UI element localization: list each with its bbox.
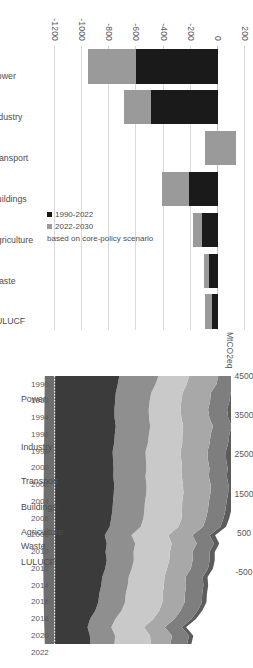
bar-segment-projection	[162, 172, 190, 206]
legend-item-historical: 1990-2022	[47, 210, 93, 219]
area-y-tick-label: -500	[235, 567, 252, 577]
bar-y-tick-label: -400	[159, 23, 169, 46]
bar-y-tick-label: 200	[240, 26, 250, 46]
area-x-tick-label: 2006	[31, 514, 49, 523]
bar-segment-projection	[205, 131, 236, 165]
bar-column[interactable]	[55, 87, 245, 128]
bar-column[interactable]	[55, 46, 245, 87]
bar-column[interactable]	[55, 250, 245, 291]
bar-category-label: Industry	[0, 112, 22, 122]
legend-label-projection: 2022-2030	[55, 222, 93, 231]
area-x-tick-label: 2014	[31, 581, 49, 590]
bar-figure-canvas: 2000-200-400-600-800-1000-1200 PowerIndu…	[0, 0, 253, 340]
bar-y-tick-label: -200	[186, 23, 196, 46]
area-series-label: Waste	[21, 541, 46, 551]
area-series-label: Buildings	[21, 502, 57, 512]
area-series-label: Power	[21, 394, 46, 404]
area-y-tick-label: 1500	[235, 489, 253, 499]
legend-label-historical: 1990-2022	[55, 210, 93, 219]
bar-segment-historical	[209, 254, 218, 288]
area-x-tick-label: 1994	[31, 413, 49, 422]
area-y-tick-label: 500	[237, 528, 251, 538]
area-x-tick-label: 2018	[31, 614, 49, 623]
bar-segment-historical	[151, 90, 218, 124]
area-series-label: Agriculture	[21, 527, 63, 537]
bar-segment-projection	[204, 254, 209, 288]
bar-segment-projection	[205, 294, 212, 328]
area-y-axis-title: MtCO2eq	[225, 332, 235, 368]
bar-category-label: Power	[0, 71, 16, 81]
legend-item-projection: 2022-2030	[47, 222, 93, 231]
bar-segment-historical	[189, 172, 218, 206]
area-x-tick-label: 2022	[31, 648, 49, 657]
bar-category-label: Waste	[0, 276, 16, 286]
bar-y-tick-label: -800	[104, 23, 114, 46]
bar-y-tick-label: -1200	[50, 18, 60, 46]
bar-category-label: Agriculture	[0, 235, 33, 245]
area-x-tick-label: 2016	[31, 597, 49, 606]
bar-segment-historical	[212, 294, 217, 328]
legend-swatch-historical-icon	[47, 212, 52, 217]
bar-category-label: LULUCF	[0, 316, 25, 326]
bar-category-label: Transport	[0, 153, 28, 163]
bar-segment-historical	[202, 213, 218, 247]
bar-segment-projection	[124, 90, 151, 124]
area-figure-canvas: MtCO2eq 4500350025001500500-500 19901992…	[0, 330, 253, 668]
area-x-tick-label: 2020	[31, 631, 49, 640]
area-x-tick-label: 1990	[31, 380, 49, 389]
emissions-by-sector-area-chart: MtCO2eq 4500350025001500500-500 19901992…	[0, 330, 253, 668]
bar-y-tick-label: -600	[131, 23, 141, 46]
bar-column[interactable]	[55, 169, 245, 210]
screenshot-root: 2000-200-400-600-800-1000-1200 PowerIndu…	[0, 0, 253, 668]
bar-segment-projection	[88, 49, 137, 83]
area-series-label: LULUCF	[21, 557, 55, 567]
area-plot-area	[35, 376, 231, 644]
area-y-tick-label: 2500	[235, 449, 253, 459]
area-series-label: Transport	[21, 476, 58, 486]
bar-y-tick-label: 0	[213, 36, 223, 46]
bar-plot-area: 2000-200-400-600-800-1000-1200	[55, 46, 245, 332]
legend-swatch-projection-icon	[47, 224, 52, 229]
bar-category-label: Buildings	[0, 194, 27, 204]
area-y-tick-label: 3500	[235, 410, 253, 420]
bar-segment-projection	[193, 213, 202, 247]
area-series-label: Industry	[21, 442, 52, 452]
bar-segment-historical	[136, 49, 217, 83]
emissions-change-bar-chart: 2000-200-400-600-800-1000-1200 PowerIndu…	[0, 0, 253, 340]
legend-note: based on core-policy scenario	[47, 234, 153, 243]
area-x-tick-label: 1996	[31, 430, 49, 439]
bar-column[interactable]	[55, 291, 245, 332]
bar-column[interactable]	[55, 128, 245, 169]
area-x-tick-label: 2000	[31, 463, 49, 472]
area-y-tick-label: 4500	[235, 371, 253, 381]
bar-y-tick-label: -1000	[77, 18, 87, 46]
area-stacked-paths	[35, 376, 231, 644]
